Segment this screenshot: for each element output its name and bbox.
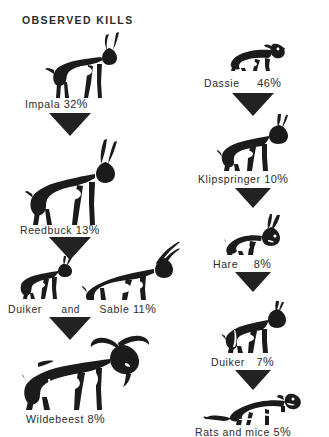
value-hare: 8: [242, 258, 261, 270]
value-klipspringer: 10: [264, 173, 277, 185]
species-name-hare: Hare: [213, 258, 238, 270]
flow-arrow-down-icon: [235, 188, 271, 208]
flow-arrow-down-icon: [235, 370, 271, 390]
percent-sign-duiker-scat: %: [263, 355, 274, 369]
flow-arrow-down-icon: [49, 113, 91, 136]
label-wildebeest: Wildebeest 8%: [26, 412, 105, 426]
label-hare: Hare 8%: [213, 257, 272, 271]
value-impala: 32: [64, 98, 77, 110]
species-name-klipspringer: Klipspringer: [198, 173, 261, 185]
percent-sign-klipspringer: %: [277, 172, 288, 186]
value-dassie: 46: [243, 77, 270, 89]
reedbuck-antelope-icon: [25, 138, 135, 226]
sable-antelope-icon: [82, 237, 182, 301]
percent-sign-impala: %: [77, 97, 88, 111]
duiker-small-antelope-icon: [221, 298, 295, 354]
species-name-duiker: Duiker: [8, 303, 42, 315]
hare-icon: [224, 212, 288, 256]
flow-arrow-down-icon: [235, 272, 271, 292]
percent-sign-hare: %: [260, 257, 271, 271]
percent-sign-dassie: %: [270, 76, 281, 90]
value-duiker-sable: 11: [133, 303, 145, 315]
label-duiker-sable: Duiker and Sable 11%: [8, 302, 156, 316]
label-impala: Impala 32%: [25, 97, 88, 111]
species-name-reedbuck: Reedbuck: [20, 224, 72, 236]
label-rats-and-mice: Rats and mice 5%: [195, 425, 291, 437]
wildebeest-icon: [22, 333, 154, 411]
column-header-observed-kills: OBSERVED KILLS: [22, 14, 134, 26]
percent-sign-duiker-sable: %: [145, 302, 156, 316]
prey-composition-figure: OBSERVED KILLS Impala 3: [0, 0, 329, 437]
klipspringer-antelope-icon: [216, 112, 302, 172]
species-name-wildebeest: Wildebeest: [26, 413, 84, 425]
species-name-rats-and-mice: Rats and mice: [195, 426, 270, 437]
species-name-impala: Impala: [25, 98, 60, 110]
percent-sign-rats-and-mice: %: [280, 425, 291, 437]
value-reedbuck: 13: [76, 224, 89, 236]
rat-mouse-icon: [203, 390, 311, 426]
species-name-sable: Sable: [100, 303, 130, 315]
duiker-small-antelope-icon: [18, 254, 78, 300]
label-dassie: Dassie 46%: [204, 76, 282, 90]
conjunction-and: and: [45, 304, 96, 315]
label-duiker-scat: Duiker 7%: [211, 355, 274, 369]
dassie-hyrax-icon: [229, 40, 287, 72]
percent-sign-wildebeest: %: [94, 412, 105, 426]
label-reedbuck: Reedbuck 13%: [20, 223, 100, 237]
label-klipspringer: Klipspringer 10%: [198, 172, 289, 186]
percent-sign-reedbuck: %: [89, 223, 100, 237]
impala-antelope-icon: [44, 27, 130, 99]
species-name-dassie: Dassie: [204, 77, 240, 89]
value-duiker-scat: 7: [248, 356, 263, 368]
species-name-duiker-scat: Duiker: [211, 356, 245, 368]
